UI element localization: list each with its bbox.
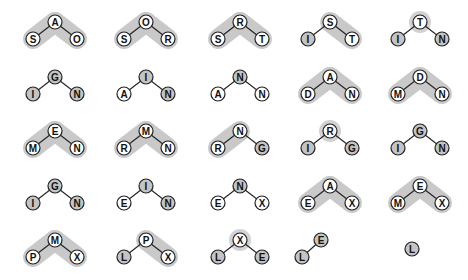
node-label: O — [142, 17, 150, 28]
tree-11: EMN — [26, 124, 84, 155]
node-label: R — [120, 143, 128, 154]
tree-3: RST — [211, 15, 269, 46]
tree-node-n: N — [161, 87, 175, 101]
tree-node-m: M — [391, 196, 405, 210]
node-label: A — [120, 89, 127, 100]
tree-node-r: R — [323, 124, 337, 138]
tree-node-m: M — [391, 87, 405, 101]
node-label: N — [73, 143, 80, 154]
tree-node-s: S — [323, 15, 337, 29]
tree-15: GIN — [391, 124, 449, 155]
tree-7: IAN — [117, 70, 175, 101]
tree-node-i: I — [26, 87, 40, 101]
node-label: L — [409, 244, 415, 255]
tree-node-x: X — [255, 196, 269, 210]
tree-node-m: M — [26, 141, 40, 155]
tree-node-t: T — [413, 15, 427, 29]
tree-node-x: X — [435, 196, 449, 210]
tree-node-g: G — [413, 124, 427, 138]
node-label: E — [215, 198, 222, 209]
tree-node-x: X — [345, 196, 359, 210]
tree-node-s: S — [26, 32, 40, 46]
tree-node-l: L — [405, 242, 419, 256]
node-label: N — [164, 198, 171, 209]
node-label: I — [397, 34, 400, 45]
node-label: M — [394, 198, 402, 209]
node-label: N — [73, 89, 80, 100]
tree-node-g: G — [345, 141, 359, 155]
node-label: A — [326, 181, 333, 192]
node-label: S — [327, 17, 334, 28]
node-label: I — [397, 143, 400, 154]
tree-node-o: O — [139, 15, 153, 29]
node-label: I — [145, 72, 148, 83]
node-label: X — [237, 235, 244, 246]
node-label: I — [307, 34, 310, 45]
node-label: P — [143, 235, 150, 246]
node-label: T — [417, 17, 423, 28]
tree-2: OSR — [117, 15, 175, 46]
tree-18: NEX — [211, 179, 269, 210]
tree-node-i: I — [301, 32, 315, 46]
node-label: N — [164, 89, 171, 100]
tree-node-d: D — [413, 70, 427, 84]
tree-node-g: G — [255, 141, 269, 155]
tree-12: MRN — [117, 124, 175, 155]
node-label: G — [51, 181, 59, 192]
tree-node-e: E — [314, 233, 328, 247]
tree-node-l: L — [211, 250, 225, 264]
tree-node-i: I — [139, 70, 153, 84]
tree-node-r: R — [211, 141, 225, 155]
tree-node-l: L — [117, 250, 131, 264]
tree-node-i: I — [139, 179, 153, 193]
tree-node-x: X — [70, 250, 84, 264]
tree-node-r: R — [161, 32, 175, 46]
tree-node-m: M — [48, 233, 62, 247]
node-label: X — [74, 252, 81, 263]
node-label: L — [299, 252, 305, 263]
node-label: T — [259, 34, 265, 45]
node-label: R — [164, 34, 172, 45]
tree-23: XLE — [211, 229, 269, 264]
tree-node-l: L — [295, 250, 309, 264]
tree-node-n: N — [70, 141, 84, 155]
node-label: X — [165, 252, 172, 263]
node-label: R — [214, 143, 222, 154]
tree-node-a: A — [48, 15, 62, 29]
tree-node-n: N — [161, 196, 175, 210]
node-label: E — [417, 181, 424, 192]
tree-node-p: P — [139, 233, 153, 247]
tree-node-n: N — [435, 141, 449, 155]
tree-node-m: M — [139, 124, 153, 138]
node-label: S — [215, 34, 222, 45]
tree-node-g: G — [48, 70, 62, 84]
tree-node-i: I — [301, 141, 315, 155]
node-label: E — [318, 235, 325, 246]
node-label: E — [305, 198, 312, 209]
tree-node-p: P — [26, 250, 40, 264]
node-label: G — [258, 143, 266, 154]
node-label: I — [32, 198, 35, 209]
node-label: E — [52, 126, 59, 137]
tree-node-n: N — [233, 124, 247, 138]
tree-node-n: N — [345, 87, 359, 101]
tree-node-t: T — [255, 32, 269, 46]
tree-node-n: N — [70, 87, 84, 101]
diagram-svg: ASOOSRRSTSITTINGINIANNANADNDMNEMNMRNNRGR… — [0, 0, 468, 280]
tree-node-a: A — [211, 87, 225, 101]
tree-20: EMX — [391, 179, 449, 210]
node-label: X — [439, 198, 446, 209]
node-label: M — [29, 143, 37, 154]
tree-13: NRG — [211, 124, 269, 155]
tree-node-o: O — [70, 32, 84, 46]
node-label: I — [145, 181, 148, 192]
node-label: N — [438, 143, 445, 154]
node-label: A — [51, 17, 58, 28]
node-label: G — [51, 72, 59, 83]
node-label: E — [259, 252, 266, 263]
tree-22: PLX — [117, 233, 175, 264]
node-label: N — [73, 198, 80, 209]
node-label: R — [326, 126, 334, 137]
tree-17: IEN — [117, 179, 175, 210]
tree-6: GIN — [26, 70, 84, 101]
